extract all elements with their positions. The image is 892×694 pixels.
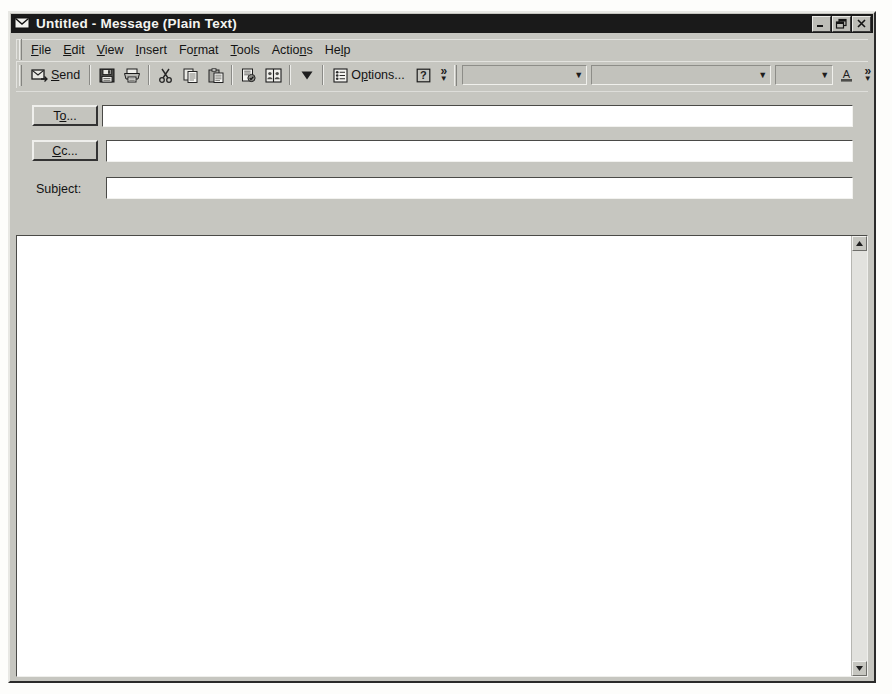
menu-item-help[interactable]: Help bbox=[319, 42, 357, 58]
options-button-label: Options... bbox=[351, 68, 405, 82]
message-body-input[interactable] bbox=[17, 236, 850, 676]
cc-button-label: Cc... bbox=[52, 144, 78, 158]
chevron-down-icon[interactable]: ▼ bbox=[572, 70, 586, 80]
menu-item-tools[interactable]: Tools bbox=[224, 42, 265, 58]
message-window: Untitled - Message (Plain Text) bbox=[8, 11, 876, 683]
body-vertical-scrollbar[interactable] bbox=[851, 236, 867, 676]
menu-item-actions[interactable]: Actions bbox=[266, 42, 319, 58]
subject-label: Subject: bbox=[36, 178, 81, 199]
window-controls bbox=[812, 16, 871, 32]
svg-text:A: A bbox=[843, 68, 851, 80]
menu-item-format[interactable]: Format bbox=[173, 42, 225, 58]
toolbar-separator bbox=[231, 65, 233, 85]
print-button[interactable] bbox=[120, 64, 144, 86]
scrollbar-track[interactable] bbox=[852, 251, 867, 661]
minimize-button[interactable] bbox=[812, 16, 831, 32]
to-button[interactable]: To... bbox=[32, 105, 98, 126]
cc-button[interactable]: Cc... bbox=[32, 140, 98, 161]
style-combo[interactable]: ▼ bbox=[462, 65, 587, 85]
scroll-up-button[interactable] bbox=[852, 236, 867, 251]
menu-item-edit[interactable]: Edit bbox=[57, 42, 91, 58]
send-button-label: Send bbox=[51, 68, 80, 82]
save-button[interactable] bbox=[95, 64, 118, 86]
options-button[interactable]: Options... bbox=[328, 64, 410, 86]
toolbar-separator bbox=[289, 65, 291, 85]
restore-button[interactable] bbox=[832, 16, 851, 32]
font-combo[interactable]: ▼ bbox=[591, 65, 771, 85]
font-color-button[interactable]: A bbox=[836, 64, 859, 86]
title-bar[interactable]: Untitled - Message (Plain Text) bbox=[11, 14, 873, 33]
menu-bar: File Edit View Insert Format Tools Actio… bbox=[16, 39, 868, 59]
copy-button[interactable] bbox=[179, 64, 202, 86]
toolbar-separator bbox=[148, 65, 150, 85]
close-button[interactable] bbox=[852, 16, 871, 32]
help-button[interactable]: ? bbox=[412, 64, 435, 86]
menubar-grip[interactable] bbox=[19, 39, 22, 60]
envelope-icon bbox=[14, 17, 30, 31]
cut-button[interactable] bbox=[154, 64, 177, 86]
chevron-down-icon[interactable]: ▼ bbox=[756, 70, 770, 80]
window-title: Untitled - Message (Plain Text) bbox=[36, 16, 237, 31]
formatbar-overflow-button[interactable]: » ▼ bbox=[861, 68, 875, 82]
font-size-combo[interactable]: ▼ bbox=[775, 65, 833, 85]
menu-item-view[interactable]: View bbox=[91, 42, 130, 58]
chevron-down-icon[interactable]: ▼ bbox=[818, 70, 832, 80]
toolbar-overflow-button[interactable]: » ▼ bbox=[437, 68, 451, 82]
send-button[interactable]: Send bbox=[26, 64, 85, 86]
address-book-button[interactable] bbox=[262, 64, 285, 86]
standard-toolbar: Send bbox=[16, 61, 868, 88]
toolbar-separator bbox=[89, 65, 91, 85]
menu-item-insert[interactable]: Insert bbox=[130, 42, 173, 58]
svg-text:?: ? bbox=[420, 69, 427, 81]
flag-button[interactable] bbox=[295, 64, 318, 86]
scroll-down-button[interactable] bbox=[852, 661, 867, 676]
toolbar-grip[interactable] bbox=[19, 65, 22, 86]
to-button-label: To... bbox=[53, 109, 77, 123]
formatbar-grip[interactable] bbox=[454, 65, 457, 86]
to-input[interactable] bbox=[102, 105, 853, 127]
message-header-area: To... Cc... Subject: bbox=[16, 91, 868, 236]
menu-item-file[interactable]: File bbox=[25, 42, 57, 58]
subject-input[interactable] bbox=[106, 177, 853, 199]
check-names-button[interactable] bbox=[237, 64, 260, 86]
cc-input[interactable] bbox=[106, 140, 853, 162]
message-body-area bbox=[16, 235, 868, 677]
paste-button[interactable] bbox=[204, 64, 227, 86]
chevron-down-icon: ▼ bbox=[440, 75, 448, 82]
toolbar-separator bbox=[322, 65, 324, 85]
chevron-down-icon: ▼ bbox=[864, 75, 872, 82]
